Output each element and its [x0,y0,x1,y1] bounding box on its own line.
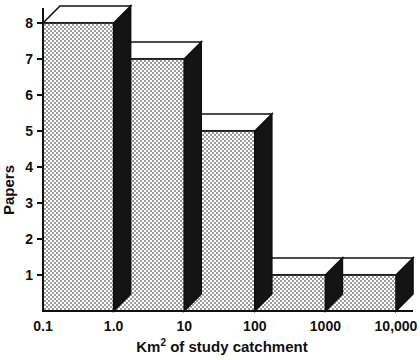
chart-canvas: 12345678 0.11.010100100010,000 Papers Km… [0,0,420,360]
x-axis-title-rest: of study catchment [166,338,308,355]
y-tick-labels: 12345678 [25,15,33,283]
bar-side-face-10 [255,114,272,311]
y-axis-title: Papers [0,165,17,215]
bar-side-face-1.0 [184,42,201,311]
y-tick-label-4: 4 [25,159,33,175]
bar-front-face-0.1 [43,23,114,311]
x-tick-label-100: 100 [243,318,267,334]
y-tick-label-1: 1 [25,267,33,283]
y-tick-label-3: 3 [25,195,33,211]
y-tick-label-6: 6 [25,87,33,103]
x-axis-title-base: Km [136,338,160,355]
x-axis-title: Km2 of study catchment [136,337,307,355]
x-tick-labels: 0.11.010100100010,000 [33,318,417,334]
x-tick-label-0.1: 0.1 [33,318,53,334]
x-tick-label-10,000: 10,000 [375,318,418,334]
x-tick-label-1.0: 1.0 [104,318,124,334]
y-tick-label-7: 7 [25,51,33,67]
y-tick-label-2: 2 [25,231,33,247]
y-tick-label-8: 8 [25,15,33,31]
bar-chart: 12345678 0.11.010100100010,000 Papers Km… [0,0,420,360]
bar-side-face-0.1 [114,6,131,311]
bar-group-0.1 [43,6,131,311]
x-tick-label-1000: 1000 [310,318,341,334]
y-tick-label-5: 5 [25,123,33,139]
bars-layer [43,6,413,311]
x-tick-label-10: 10 [176,318,192,334]
